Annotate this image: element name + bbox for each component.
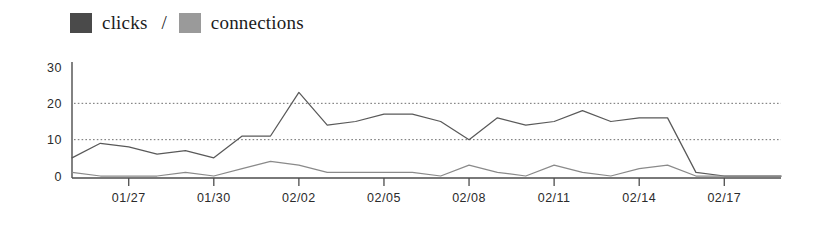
chart-svg: 0102030 01/2701/3002/0202/0502/0802/1102… [0, 0, 830, 228]
x-tick-label-02/17: 02/17 [707, 191, 741, 205]
y-tick-label-20: 20 [47, 97, 62, 111]
series-line-clicks [72, 92, 781, 176]
y-tick-label-30: 30 [47, 61, 62, 75]
series-lines [72, 92, 781, 176]
x-tick-marks [129, 178, 725, 186]
x-tick-label-02/02: 02/02 [282, 191, 316, 205]
x-tick-label-02/05: 02/05 [367, 191, 401, 205]
y-tick-label-0: 0 [55, 170, 62, 184]
gridlines [74, 103, 781, 139]
x-tick-label-02/14: 02/14 [622, 191, 656, 205]
x-tick-label-01/27: 01/27 [112, 191, 146, 205]
x-tick-labels: 01/2701/3002/0202/0502/0802/1102/1402/17 [112, 191, 741, 205]
y-tick-labels: 0102030 [47, 61, 62, 184]
y-tick-label-10: 10 [47, 133, 62, 147]
line-chart: 0102030 01/2701/3002/0202/0502/0802/1102… [0, 0, 830, 228]
series-line-connections [72, 161, 781, 176]
x-tick-label-02/08: 02/08 [452, 191, 486, 205]
x-tick-label-02/11: 02/11 [538, 191, 571, 205]
x-tick-label-01/30: 01/30 [197, 191, 231, 205]
chart-page: clicks / connections 0102030 01/2701/300… [0, 0, 830, 228]
